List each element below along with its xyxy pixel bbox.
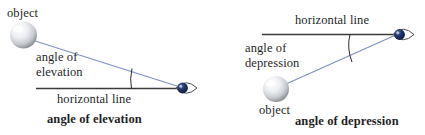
- eye-glint-elevation: [179, 85, 182, 88]
- label-horizontal-line-depression: horizontal line: [295, 13, 369, 27]
- sphere-highlight-elevation: [13, 25, 23, 33]
- angle-arc-depression: [349, 35, 352, 63]
- eye-icon-elevation: [176, 83, 197, 94]
- sphere-highlight-depression: [266, 80, 276, 87]
- line-of-sight-depression: [286, 34, 398, 84]
- eye-icon-depression: [393, 29, 414, 40]
- caption-angle-of-elevation: angle of elevation: [47, 112, 142, 126]
- eye-iris-depression: [394, 29, 405, 40]
- eye-glint-depression: [396, 31, 399, 34]
- label-angle-of-depression: angle of depression: [245, 41, 299, 70]
- trigonometry-angle-figure: object angle of elevation horizontal lin…: [0, 0, 425, 135]
- label-object-elevation: object: [7, 6, 38, 20]
- label-object-depression: object: [259, 103, 290, 117]
- sphere-icon-depression: [263, 76, 289, 102]
- sphere-icon-elevation: [10, 22, 37, 49]
- eye-iris-elevation: [177, 83, 188, 94]
- caption-angle-of-depression: angle of depression: [295, 114, 399, 128]
- label-angle-of-elevation: angle of elevation: [36, 50, 83, 79]
- label-horizontal-line-elevation: horizontal line: [57, 92, 131, 106]
